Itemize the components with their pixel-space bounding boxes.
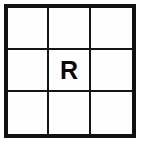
grid-cell-r3c2[interactable] <box>49 92 90 134</box>
grid-figure: R <box>0 0 141 144</box>
grid-cell-label-r: R <box>60 58 78 83</box>
grid-cell-r1c1[interactable] <box>8 8 49 50</box>
grid-cell-r1c2[interactable] <box>49 8 90 50</box>
grid-outer-border: R <box>4 4 136 138</box>
grid-cell-r1c3[interactable] <box>91 8 132 50</box>
grid-cell-r3c1[interactable] <box>8 92 49 134</box>
grid-cell-r3c3[interactable] <box>91 92 132 134</box>
grid-cell-r2c2[interactable]: R <box>49 50 90 92</box>
grid-cells: R <box>8 8 132 134</box>
grid-cell-r2c1[interactable] <box>8 50 49 92</box>
grid-cell-r2c3[interactable] <box>91 50 132 92</box>
